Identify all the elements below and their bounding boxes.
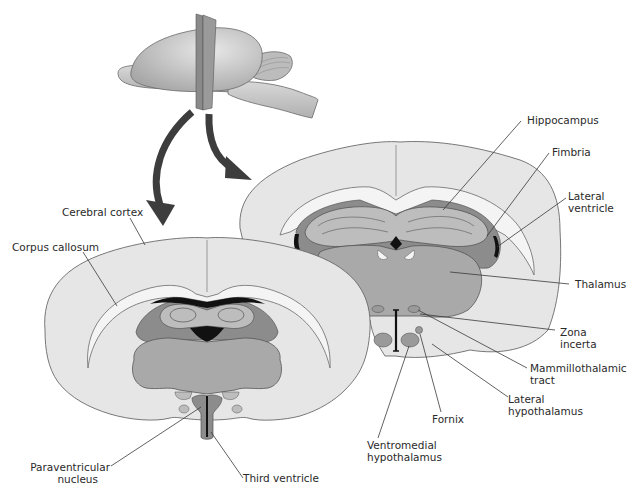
arrow-to-posterior-section bbox=[209, 114, 252, 180]
label-mammillothalamic-tract-line1: Mammillothalamic bbox=[530, 362, 627, 374]
label-lateral-ventricle-line2: ventricle bbox=[568, 202, 614, 214]
label-ventromedial-hypothalamus: Ventromedial hypothalamus bbox=[367, 439, 442, 463]
label-lateral-hypothalamus: Lateral hypothalamus bbox=[508, 393, 583, 417]
diagram-canvas: Cerebral cortex Corpus callosum Hippocam… bbox=[0, 0, 629, 498]
label-mammillothalamic-tract-line2: tract bbox=[530, 374, 627, 386]
label-zona-incerta-line1: Zona bbox=[560, 326, 597, 338]
label-mammillothalamic-tract: Mammillothalamic tract bbox=[530, 362, 627, 386]
label-zona-incerta: Zona incerta bbox=[560, 326, 597, 350]
label-paraventricular-nucleus-line2: nucleus bbox=[30, 473, 110, 485]
label-ventromedial-hypothalamus-line2: hypothalamus bbox=[367, 451, 442, 463]
label-ventromedial-hypothalamus-line1: Ventromedial bbox=[367, 439, 442, 451]
label-corpus-callosum: Corpus callosum bbox=[12, 241, 99, 253]
label-lateral-ventricle-line1: Lateral bbox=[568, 190, 614, 202]
arrow-to-anterior-section bbox=[146, 112, 192, 226]
label-thalamus: Thalamus bbox=[575, 278, 626, 290]
label-lateral-ventricle: Lateral ventricle bbox=[568, 190, 614, 214]
anterior-coronal-section bbox=[45, 238, 370, 440]
label-lateral-hypothalamus-line2: hypothalamus bbox=[508, 405, 583, 417]
label-fimbria: Fimbria bbox=[552, 146, 591, 158]
label-third-ventricle: Third ventricle bbox=[243, 472, 319, 484]
label-paraventricular-nucleus-line1: Paraventricular bbox=[30, 461, 110, 473]
whole-brain-lateral-view bbox=[118, 14, 318, 118]
label-hippocampus: Hippocampus bbox=[527, 114, 599, 126]
label-paraventricular-nucleus: Paraventricular nucleus bbox=[30, 461, 110, 485]
label-zona-incerta-line2: incerta bbox=[560, 338, 597, 350]
label-fornix: Fornix bbox=[432, 413, 464, 425]
label-cerebral-cortex: Cerebral cortex bbox=[62, 206, 143, 218]
label-lateral-hypothalamus-line1: Lateral bbox=[508, 393, 583, 405]
